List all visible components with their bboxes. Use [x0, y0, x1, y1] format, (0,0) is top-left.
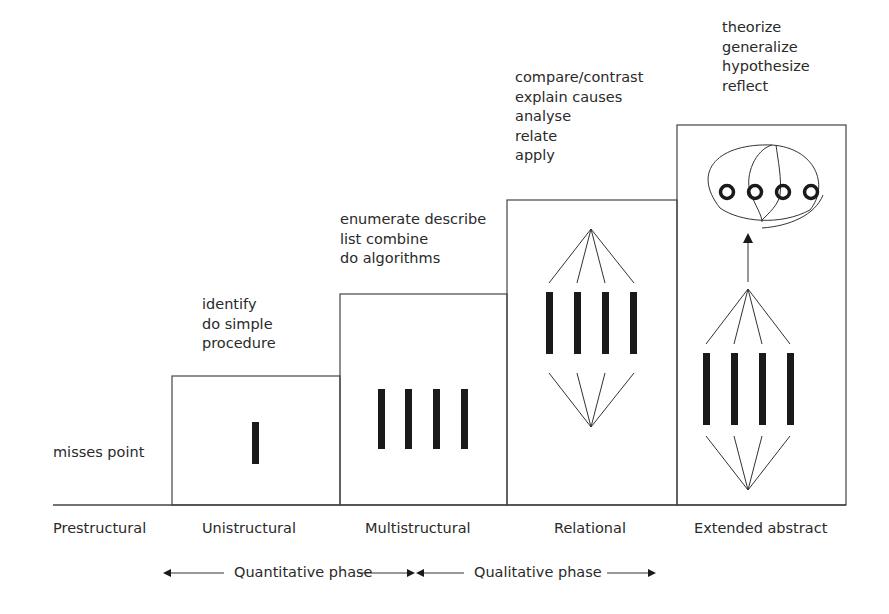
level-label-extended-abstract: Extended abstract: [694, 520, 827, 536]
unistructural-verbs: identify do simple procedure: [202, 295, 276, 354]
relational-structure-icon: [546, 229, 637, 427]
prestructural-verbs: misses point: [53, 443, 144, 463]
verb: do algorithms: [340, 249, 486, 269]
phase-label-quantitative: Quantitative phase: [234, 564, 373, 580]
level-label-prestructural: Prestructural: [53, 520, 146, 536]
verb: analyse: [515, 107, 643, 127]
level-label-multistructural: Multistructural: [365, 520, 471, 536]
verb: hypothesize: [722, 57, 810, 77]
level-label-unistructural: Unistructural: [202, 520, 296, 536]
verb: compare/contrast: [515, 68, 643, 88]
multistructural-verbs: enumerate describe list combine do algor…: [340, 210, 486, 269]
verb: relate: [515, 127, 643, 147]
verb: do simple: [202, 315, 276, 335]
level-label-relational: Relational: [554, 520, 626, 536]
verb: misses point: [53, 443, 144, 463]
unistructural-bar-icon: [252, 422, 259, 464]
verb: apply: [515, 146, 643, 166]
relational-verbs: compare/contrast explain causes analyse …: [515, 68, 643, 166]
extended-abstract-structure-icon: [703, 145, 823, 490]
verb: list combine: [340, 230, 486, 250]
multistructural-box: [340, 294, 507, 505]
verb: reflect: [722, 77, 810, 97]
verb: explain causes: [515, 88, 643, 108]
verb: theorize: [722, 18, 810, 38]
verb: identify: [202, 295, 276, 315]
multistructural-bars-icon: [378, 389, 468, 449]
extended-abstract-box: [677, 125, 846, 505]
phase-label-qualitative: Qualitative phase: [474, 564, 602, 580]
verb: generalize: [722, 38, 810, 58]
verb: procedure: [202, 334, 276, 354]
verb: enumerate describe: [340, 210, 486, 230]
extended-abstract-verbs: theorize generalize hypothesize reflect: [722, 18, 810, 96]
relational-box: [507, 200, 677, 505]
